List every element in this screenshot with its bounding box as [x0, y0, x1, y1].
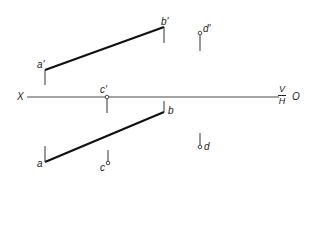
label-a: a: [37, 159, 43, 169]
point-c-icon: [106, 161, 110, 165]
label-d: d: [204, 142, 210, 152]
label-c-prime: c': [100, 85, 107, 95]
axis-label-x: X: [17, 92, 24, 102]
label-a-prime: a': [37, 60, 44, 70]
plane-label-v: V: [278, 85, 286, 96]
point-c-prime-icon: [105, 95, 109, 99]
point-d-prime-icon: [198, 31, 202, 35]
segment-a-prime-b-prime: [45, 27, 164, 70]
segment-a-b: [45, 112, 164, 162]
axis-label-o: O: [292, 92, 300, 102]
plane-label-h: H: [278, 96, 286, 106]
projection-diagram: X V H O a' b' d' c' b a c d: [0, 0, 311, 240]
drawing-canvas: [0, 0, 311, 240]
label-d-prime: d': [203, 24, 210, 34]
label-b: b: [168, 106, 174, 116]
plane-label-v-h: V H: [278, 85, 286, 106]
point-d-icon: [198, 145, 202, 149]
label-b-prime: b': [161, 17, 168, 27]
label-c: c: [100, 163, 105, 173]
